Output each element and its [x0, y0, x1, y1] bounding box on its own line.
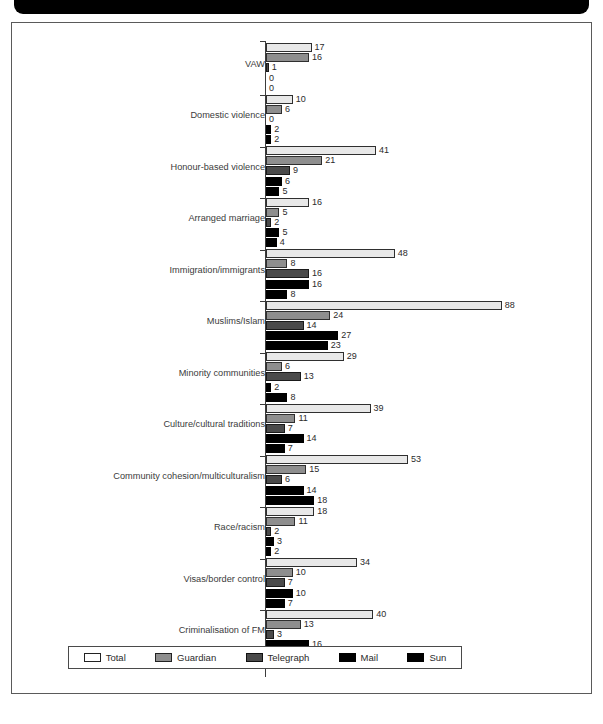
bar-row: 24 [266, 311, 586, 320]
category-label: Muslims/Islam [35, 316, 265, 326]
bar-guardian [266, 568, 293, 577]
bar-row: 0 [266, 84, 586, 93]
bar-value-label: 5 [279, 207, 287, 218]
bar-value-label: 7 [285, 423, 293, 434]
bar-value-label: 11 [295, 516, 307, 527]
bar-guardian [266, 105, 282, 114]
bar-row: 41 [266, 146, 586, 155]
category-label: Immigration/immigrants [35, 265, 265, 275]
bar-value-label: 23 [328, 340, 341, 351]
bar-row: 6 [266, 475, 586, 484]
bar-row: 0 [266, 115, 586, 124]
bar-row: 2 [266, 125, 586, 134]
category-label: Visas/border control [35, 574, 265, 584]
chart-legend: TotalGuardianTelegraphMailSun [68, 646, 462, 669]
legend-label: Mail [361, 652, 378, 663]
axis-tick [260, 147, 266, 148]
bar-sun [266, 444, 285, 453]
bar-total [266, 507, 314, 516]
bar-telegraph [266, 166, 290, 175]
legend-label: Sun [429, 652, 446, 663]
bar-value-label: 2 [271, 134, 279, 145]
bar-value-label: 16 [309, 197, 322, 208]
bar-row: 23 [266, 341, 586, 350]
axis-tick [260, 610, 266, 611]
bar-row: 9 [266, 166, 586, 175]
bar-row: 16 [266, 198, 586, 207]
bar-guardian [266, 311, 330, 320]
bar-guardian [266, 208, 279, 217]
bar-row: 2 [266, 547, 586, 556]
bar-value-label: 8 [287, 392, 295, 403]
bar-value-label: 11 [295, 413, 307, 424]
legend-item-telegraph[interactable]: Telegraph [246, 652, 310, 663]
bar-mail [266, 280, 309, 289]
bar-sun [266, 341, 328, 350]
bar-row: 7 [266, 444, 586, 453]
bar-value-label: 6 [282, 474, 290, 485]
bar-value-label: 16 [309, 279, 322, 290]
bar-mail [266, 589, 293, 598]
bar-sun [266, 599, 285, 608]
bar-total [266, 249, 395, 258]
bar-mail [266, 177, 282, 186]
bar-value-label: 6 [282, 104, 290, 115]
bar-row: 6 [266, 177, 586, 186]
bar-row: 14 [266, 434, 586, 443]
bar-value-label: 29 [344, 351, 357, 362]
bar-row: 6 [266, 362, 586, 371]
bar-telegraph [266, 424, 285, 433]
bar-value-label: 13 [301, 371, 314, 382]
bar-telegraph [266, 269, 309, 278]
bar-row: 5 [266, 228, 586, 237]
bar-row: 7 [266, 578, 586, 587]
bar-mail [266, 434, 304, 443]
bar-row: 3 [266, 630, 586, 639]
bar-value-label: 7 [285, 443, 293, 454]
bar-value-label: 34 [357, 557, 370, 568]
bar-row: 27 [266, 331, 586, 340]
bar-row: 2 [266, 527, 586, 536]
bar-row: 18 [266, 507, 586, 516]
bar-total [266, 43, 312, 52]
bar-value-label: 88 [502, 300, 515, 311]
axis-tick [260, 353, 266, 354]
bar-row: 39 [266, 404, 586, 413]
bar-mail [266, 486, 304, 495]
bar-value-label: 9 [290, 165, 298, 176]
legend-item-mail[interactable]: Mail [339, 652, 378, 663]
bar-value-label: 14 [304, 433, 317, 444]
bar-value-label: 10 [293, 94, 306, 105]
axis-tick [260, 41, 266, 42]
bar-row: 2 [266, 218, 586, 227]
legend-item-sun[interactable]: Sun [407, 652, 446, 663]
bar-value-label: 6 [282, 361, 290, 372]
bar-row: 53 [266, 455, 586, 464]
legend-item-guardian[interactable]: Guardian [155, 652, 216, 663]
bar-telegraph [266, 578, 285, 587]
bar-row: 18 [266, 496, 586, 505]
bar-row: 7 [266, 599, 586, 608]
bar-row: 1 [266, 63, 586, 72]
bar-telegraph [266, 372, 301, 381]
axis-tick [260, 250, 266, 251]
bar-row: 2 [266, 383, 586, 392]
bar-value-label: 0 [266, 83, 274, 94]
bar-total [266, 404, 371, 413]
bar-telegraph [266, 321, 304, 330]
bar-row: 8 [266, 259, 586, 268]
bar-telegraph [266, 475, 282, 484]
bar-row: 5 [266, 187, 586, 196]
bar-value-label: 18 [314, 506, 327, 517]
axis-tick [260, 456, 266, 457]
bar-total [266, 610, 373, 619]
bar-total [266, 146, 376, 155]
bar-row: 4 [266, 238, 586, 247]
bar-value-label: 10 [293, 588, 306, 599]
legend-label: Total [106, 652, 126, 663]
bar-value-label: 39 [371, 403, 384, 414]
legend-item-total[interactable]: Total [84, 652, 126, 663]
bar-row: 10 [266, 568, 586, 577]
bar-guardian [266, 53, 309, 62]
axis-tick [260, 559, 266, 560]
